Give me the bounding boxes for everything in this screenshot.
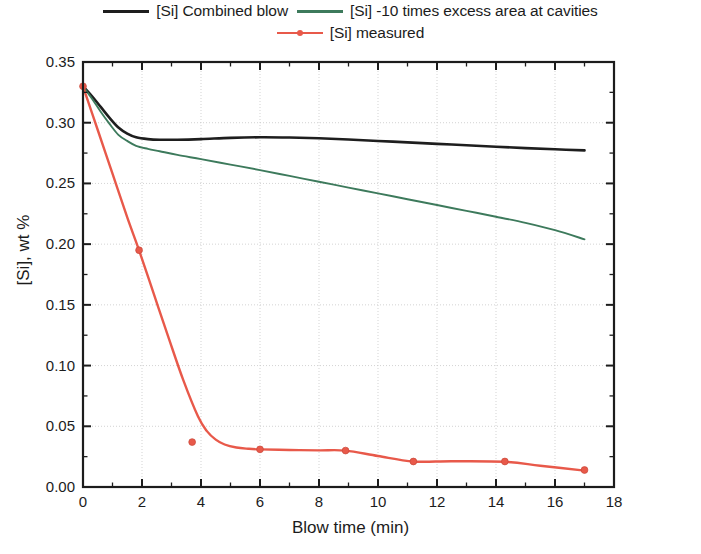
x-tick-label: 0 — [68, 493, 98, 510]
y-tick-label: 0.00 — [21, 478, 75, 495]
legend-row-1: [Si] Combined blow [Si] -10 times excess… — [0, 0, 701, 22]
data-point-measured — [501, 458, 508, 465]
chart-figure: [Si] Combined blow [Si] -10 times excess… — [0, 0, 701, 554]
legend-label-measured: [Si] measured — [330, 24, 424, 42]
series-line-combined-blow — [83, 86, 585, 150]
y-tick-label: 0.25 — [21, 174, 75, 191]
data-series-group — [80, 83, 588, 474]
y-tick-label: 0.05 — [21, 417, 75, 434]
data-point-measured — [410, 458, 417, 465]
x-tick-label: 2 — [127, 493, 157, 510]
data-point-measured — [581, 467, 588, 474]
plot-frame — [83, 62, 614, 487]
legend-label-excess-area: [Si] -10 times excess area at cavities — [350, 2, 598, 20]
y-tick-label: 0.20 — [21, 235, 75, 252]
x-tick-label: 6 — [245, 493, 275, 510]
legend-item-combined-blow: [Si] Combined blow — [103, 2, 288, 20]
legend-item-measured: [Si] measured — [277, 24, 424, 42]
x-tick-label: 10 — [363, 493, 393, 510]
data-point-measured — [342, 447, 349, 454]
x-tick-label: 12 — [422, 493, 452, 510]
x-tick-label: 4 — [186, 493, 216, 510]
legend-swatch-combined-blow-icon — [103, 5, 149, 17]
x-tick-label: 14 — [481, 493, 511, 510]
legend-item-excess-area: [Si] -10 times excess area at cavities — [297, 2, 598, 20]
plot-area — [0, 0, 701, 554]
data-point-measured — [257, 446, 264, 453]
chart-legend: [Si] Combined blow [Si] -10 times excess… — [0, 0, 701, 44]
legend-row-2: [Si] measured — [0, 22, 701, 44]
x-tick-label: 16 — [540, 493, 570, 510]
y-tick-label: 0.30 — [21, 114, 75, 131]
gridlines — [83, 62, 614, 487]
data-point-measured — [136, 247, 143, 254]
legend-marker-circle-icon — [297, 30, 303, 36]
x-tick-label: 18 — [599, 493, 629, 510]
x-axis-title: Blow time (min) — [0, 518, 701, 538]
y-tick-label: 0.15 — [21, 296, 75, 313]
x-tick-label: 8 — [304, 493, 334, 510]
axis-ticks — [83, 62, 614, 487]
legend-swatch-measured-icon — [277, 27, 323, 39]
legend-swatch-excess-area-icon — [297, 5, 343, 17]
series-line-excess-area — [83, 86, 585, 239]
series-line-measured — [83, 86, 585, 470]
y-tick-label: 0.35 — [21, 53, 75, 70]
legend-label-combined-blow: [Si] Combined blow — [156, 2, 288, 20]
data-point-measured — [189, 439, 196, 446]
y-tick-label: 0.10 — [21, 357, 75, 374]
